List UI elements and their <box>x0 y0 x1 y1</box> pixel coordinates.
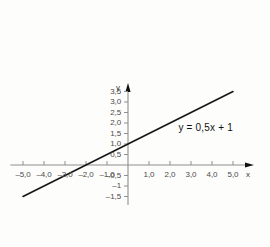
y-tick-label: 3,5 <box>0 88 121 96</box>
y-tick-label: 1,5 <box>0 130 121 138</box>
x-tick-label: 4,0 <box>207 171 218 179</box>
y-tick-label: –0,5 <box>0 172 121 180</box>
y-tick-label: 2,0 <box>0 119 121 127</box>
x-tick-label: 3,0 <box>186 171 197 179</box>
function-plot: –5,0–4,0–3,0–2,0–1,01,02,03,04,05,0 3,53… <box>0 0 270 247</box>
y-axis-arrowhead <box>125 83 130 92</box>
y-tick-label: 1,0 <box>0 140 121 148</box>
x-axis-label: x <box>246 171 250 179</box>
y-axis-label: y <box>116 84 120 92</box>
y-tick-label: 3,0 <box>0 98 121 106</box>
y-tick-label: –1 <box>0 182 121 190</box>
x-tick-label: 1,0 <box>144 171 155 179</box>
function-equation-label: y = 0,5x + 1 <box>178 123 233 133</box>
y-tick-label: 2,5 <box>0 109 121 117</box>
y-tick-label: –1,5 <box>0 193 121 201</box>
x-axis-arrowhead <box>245 162 254 167</box>
x-tick-label: 2,0 <box>165 171 176 179</box>
x-tick-label: 5,0 <box>228 171 239 179</box>
y-tick-label: 0,5 <box>0 151 121 159</box>
